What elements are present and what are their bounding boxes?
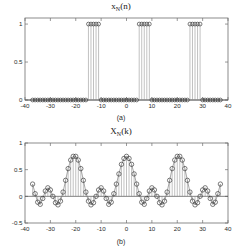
panel-a-caption: (a): [0, 114, 242, 121]
stem-lines: [88, 24, 200, 100]
x-tick-label: 40: [225, 225, 232, 232]
panel-b-title-tail: (k): [121, 126, 132, 136]
x-tick-label: 40: [225, 102, 232, 109]
x-tick-label: -10: [97, 102, 107, 109]
y-tick-label: -0.5: [12, 219, 23, 226]
panel-a-title-tail: (n): [120, 1, 131, 11]
panel-b-plot: -40-30-20-10010203040-0.500.51: [0, 137, 242, 237]
x-tick-label: -30: [46, 102, 56, 109]
y-tick-label: 1: [19, 20, 23, 27]
x-tick-label: 0: [125, 102, 129, 109]
x-tick-label: -20: [71, 102, 81, 109]
stem-lines: [33, 156, 221, 205]
x-tick-label: 10: [148, 102, 155, 109]
y-tick-label: 1: [19, 139, 23, 146]
x-tick-label: -20: [71, 225, 81, 232]
panel-b-caption: (b): [0, 238, 242, 245]
x-tick-label: 20: [174, 102, 181, 109]
x-tick-label: -30: [46, 225, 56, 232]
y-tick-label: 0.5: [14, 58, 23, 65]
panel-b-title: XN(k): [0, 126, 242, 136]
figure-root: xN(n) -40-30-20-1001020304000.51 (a) XN(…: [0, 0, 242, 250]
panel-a-title: xN(n): [0, 1, 242, 11]
panel-b: -40-30-20-10010203040-0.500.51: [0, 137, 242, 237]
x-tick-label: 10: [148, 225, 155, 232]
x-tick-label: 30: [199, 102, 206, 109]
panel-b-title-main: X: [110, 126, 117, 136]
data-markers: [31, 22, 223, 102]
y-tick-label: 0: [19, 96, 23, 103]
x-tick-label: -10: [97, 225, 107, 232]
x-tick-label: 20: [174, 225, 181, 232]
panel-a-plot: -40-30-20-1001020304000.51: [0, 12, 242, 114]
x-tick-label: 30: [199, 225, 206, 232]
panel-a: -40-30-20-1001020304000.51: [0, 12, 242, 114]
x-tick-label: 0: [125, 225, 129, 232]
y-tick-label: 0: [19, 193, 23, 200]
y-tick-label: 0.5: [14, 166, 23, 173]
